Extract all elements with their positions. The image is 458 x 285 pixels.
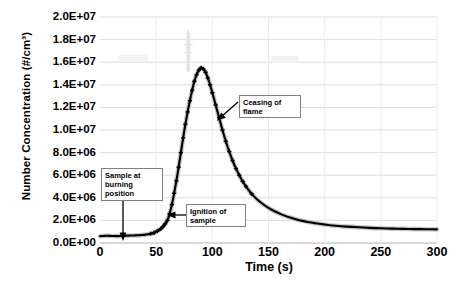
x-tick-label: 100	[182, 246, 242, 259]
annotation-ignition-of-sample: Ignition of sample	[186, 204, 246, 227]
chart-container: Number Concentration (#/cm³) 0.0E+002.0E…	[0, 0, 458, 285]
annotation-line: Ceasing of	[243, 98, 297, 107]
annotation-line: position	[105, 189, 159, 198]
x-axis-title: Time (s)	[100, 260, 438, 274]
x-tick-label: 0	[70, 246, 130, 259]
annotation-line: flame	[243, 107, 297, 116]
annotation-line: burning	[105, 180, 159, 189]
x-tick-label: 50	[126, 246, 186, 259]
x-tick-label: 300	[407, 246, 458, 259]
x-tick-label: 250	[351, 246, 411, 259]
x-tick-label: 150	[239, 246, 299, 259]
annotation-sample-at-burning-position: Sample at burning position	[101, 168, 163, 201]
x-tick-label: 200	[295, 246, 355, 259]
annotation-ceasing-of-flame: Ceasing of flame	[239, 95, 301, 118]
annotation-line: sample	[190, 216, 242, 225]
annotation-line: Ignition of	[190, 207, 242, 216]
x-axis-tick-labels: 050100150200250300	[0, 0, 458, 285]
annotation-line: Sample at	[105, 171, 159, 180]
